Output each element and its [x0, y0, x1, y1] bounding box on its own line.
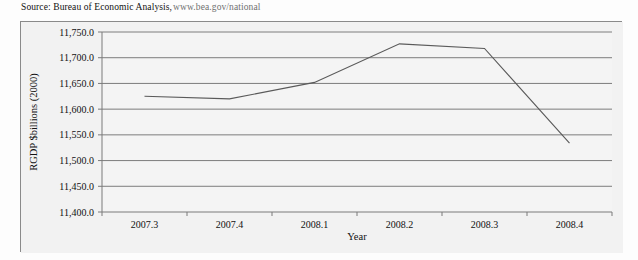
- x-axis-tick-label: 2008.1: [301, 219, 329, 230]
- x-axis-tick-label: 2008.3: [471, 219, 499, 230]
- y-axis-tick-label: 11,400.0: [59, 207, 94, 218]
- x-axis-tick-label: 2007.4: [216, 219, 244, 230]
- y-axis-tick-label: 11,450.0: [59, 181, 94, 192]
- y-axis-tick-label: 11,700.0: [59, 52, 94, 63]
- y-axis-tick-label: 11,750.0: [59, 27, 94, 38]
- chart-frame: 11,750.011,700.011,650.011,600.011,550.0…: [20, 21, 622, 252]
- x-axis-title: Year: [347, 231, 367, 242]
- source-url: www.bea.gov/national: [173, 2, 260, 12]
- x-axis-tick-label: 2008.2: [386, 219, 414, 230]
- y-axis-tick-label: 11,650.0: [59, 78, 94, 89]
- figure-container: Source: Bureau of Economic Analysis,www.…: [0, 0, 638, 260]
- y-axis-tick-label: 11,600.0: [59, 104, 94, 115]
- plot-area: [102, 32, 612, 212]
- x-axis-tick-label: 2007.3: [131, 219, 159, 230]
- source-label: Source: Bureau of Economic Analysis,: [21, 2, 172, 12]
- y-axis-tick-label: 11,550.0: [59, 129, 94, 140]
- source-caption: Source: Bureau of Economic Analysis,www.…: [21, 2, 260, 12]
- x-axis-tick-label: 2008.4: [556, 219, 584, 230]
- y-axis-tick-label: 11,500.0: [59, 155, 94, 166]
- y-axis-title: RGDP $billions (2000): [28, 73, 40, 171]
- line-chart: 11,750.011,700.011,650.011,600.011,550.0…: [21, 22, 623, 253]
